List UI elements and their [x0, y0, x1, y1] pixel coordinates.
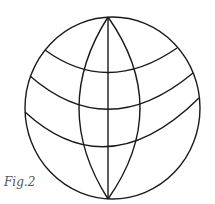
figure-caption: Fig.2 [4, 175, 35, 189]
latitude-line-3 [25, 98, 199, 147]
latitude-line-2 [30, 73, 193, 109]
latitude-line-1 [45, 48, 177, 73]
globe-outline [25, 17, 200, 199]
globe-diagram [0, 0, 215, 204]
